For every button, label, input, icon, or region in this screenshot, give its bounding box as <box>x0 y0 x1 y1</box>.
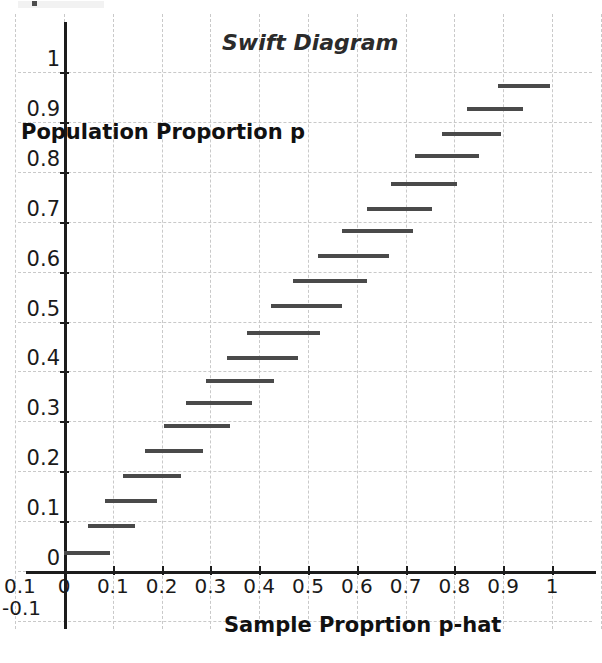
y-axis-tick-label: 0.2 <box>27 447 60 469</box>
swift-diagram-chart: 00.10.20.30.40.50.60.70.80.9100.10.20.30… <box>0 0 602 663</box>
y-axis-tick <box>60 222 69 224</box>
y-axis-title: Population Proportion p <box>21 120 305 144</box>
axis-overflow-label: 0.1 <box>4 575 36 597</box>
y-axis-tick-label: 0.3 <box>27 397 60 419</box>
y-axis-tick-label: 0.1 <box>27 497 60 519</box>
confidence-interval-segment <box>342 229 413 233</box>
gridline-horizontal <box>18 322 592 323</box>
confidence-interval-segment <box>247 331 320 335</box>
x-axis-title: Sample Proprtion p-hat <box>224 613 501 637</box>
confidence-interval-segment <box>227 356 298 360</box>
confidence-interval-segment <box>206 379 274 383</box>
confidence-interval-segment <box>415 154 478 158</box>
y-axis-tick-label: 0.5 <box>27 298 60 320</box>
gridline-horizontal <box>18 272 592 273</box>
gridline-horizontal <box>18 421 592 422</box>
confidence-interval-segment <box>145 449 204 453</box>
gridline-horizontal <box>18 172 592 173</box>
confidence-interval-segment <box>318 254 389 258</box>
confidence-interval-segment <box>367 207 433 211</box>
confidence-interval-segment <box>164 424 230 428</box>
confidence-interval-segment <box>88 524 134 528</box>
plot-area: 00.10.20.30.40.50.60.70.80.9100.10.20.30… <box>0 0 602 663</box>
y-axis-tick-label: 0.7 <box>27 198 60 220</box>
y-axis-tick-label: 0.6 <box>27 248 60 270</box>
gridline-horizontal <box>18 72 592 73</box>
y-axis-tick <box>60 421 69 423</box>
gridline-horizontal <box>18 371 592 372</box>
y-axis-line <box>64 22 67 629</box>
confidence-interval-segment <box>186 401 252 405</box>
y-axis-tick-label: 0.4 <box>27 347 60 369</box>
y-axis-tick-label: 1 <box>47 48 60 70</box>
y-axis-tick <box>60 172 69 174</box>
confidence-interval-segment <box>498 84 549 88</box>
y-axis-tick <box>60 371 69 373</box>
y-axis-tick-label: 0.8 <box>27 148 60 170</box>
gridline-vertical <box>15 14 16 629</box>
confidence-interval-segment <box>123 474 182 478</box>
x-axis-tick-label: 1 <box>522 575 582 597</box>
y-axis-tick-label: 0 <box>47 547 60 569</box>
chart-title: Swift Diagram <box>222 30 398 55</box>
y-axis-tick <box>60 72 69 74</box>
gridline-horizontal <box>18 222 592 223</box>
y-axis-tick <box>60 471 69 473</box>
gridline-horizontal <box>18 471 592 472</box>
y-axis-tick <box>60 521 69 523</box>
confidence-interval-segment <box>271 304 342 308</box>
y-axis-tick-label: 0.9 <box>27 98 60 120</box>
y-axis-tick <box>60 272 69 274</box>
confidence-interval-segment <box>64 551 110 555</box>
confidence-interval-segment <box>293 279 366 283</box>
confidence-interval-segment <box>105 499 156 503</box>
confidence-interval-segment <box>467 107 523 111</box>
gridline-horizontal <box>18 521 592 522</box>
y-axis-tick <box>60 322 69 324</box>
confidence-interval-segment <box>391 182 457 186</box>
confidence-interval-segment <box>442 132 501 136</box>
axis-overflow-label: -0.1 <box>2 597 41 619</box>
